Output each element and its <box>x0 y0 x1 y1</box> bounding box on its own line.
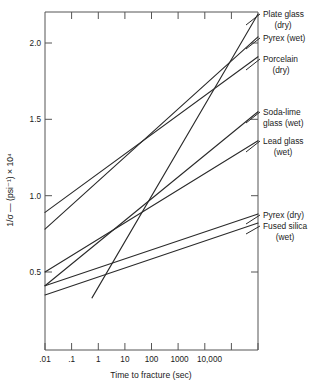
y-tick-label: 0.5 <box>30 268 42 277</box>
series-label-pyrex-wet: Pyrex (wet) <box>263 33 306 43</box>
y-tick-label: 2.0 <box>30 39 42 48</box>
y-tick-labels: 0.5 1.0 1.5 2.0 <box>30 39 42 277</box>
y-tick-label: 1.0 <box>30 192 42 201</box>
plot-axes <box>45 12 258 350</box>
y-axis-title: 1/σ — (psi⁻¹) × 10⁴ <box>5 153 15 227</box>
x-tick-label: 1000 <box>170 355 189 364</box>
y-tick-label: 1.5 <box>30 115 42 124</box>
x-axis-ticks <box>45 343 258 350</box>
x-axis-title: Time to fracture (sec) <box>110 370 191 380</box>
series-label-fused-silica-wet: Fused silica <box>263 221 308 231</box>
x-tick-label: .01 <box>39 355 51 364</box>
chart-canvas: .01 .1 1 10 100 1000 10,000 0.5 1.0 1.5 … <box>0 0 330 391</box>
series-sublabel-porcelain-dry: (dry) <box>272 65 289 75</box>
series-line-lead-glass-wet <box>45 141 258 272</box>
series-sublabel-fused-silica-wet: (wet) <box>276 232 295 242</box>
axis-left-bottom <box>45 12 258 350</box>
y-axis-ticks <box>45 43 52 272</box>
series-label-porcelain-dry: Porcelain <box>263 54 298 64</box>
series-line-porcelain-dry <box>45 57 258 213</box>
series-sublabel-plate-glass-dry: (dry) <box>274 20 291 30</box>
series-label-plate-glass-dry: Plate glass <box>263 9 304 19</box>
series-sublabel-lead-glass-wet: (wet) <box>274 147 293 157</box>
x-tick-label: 10,000 <box>197 355 222 364</box>
x-tick-label: 10 <box>120 355 130 364</box>
series-labels: Plate glass (dry) Pyrex (wet) Porcelain … <box>263 9 308 242</box>
y-axis-right-ticks <box>251 43 258 272</box>
x-axis-top-ticks <box>72 12 232 19</box>
series-curves <box>45 14 258 298</box>
x-tick-label: 100 <box>145 355 159 364</box>
fracture-time-chart-figure: .01 .1 1 10 100 1000 10,000 0.5 1.0 1.5 … <box>0 0 330 391</box>
series-line-pyrex-wet <box>45 37 258 229</box>
series-line-pyrex-dry <box>45 214 258 286</box>
series-label-lead-glass-wet: Lead glass <box>263 136 304 146</box>
x-tick-label: .1 <box>68 355 75 364</box>
series-line-soda-lime-glass-wet <box>45 112 258 286</box>
series-label-pyrex-dry: Pyrex (dry) <box>263 210 304 220</box>
x-tick-labels: .01 .1 1 10 100 1000 10,000 <box>39 355 222 364</box>
x-tick-label: 1 <box>96 355 101 364</box>
series-sublabel-soda-lime-glass-wet: glass (wet) <box>263 118 304 128</box>
series-label-soda-lime-glass-wet: Soda-lime <box>263 107 301 117</box>
